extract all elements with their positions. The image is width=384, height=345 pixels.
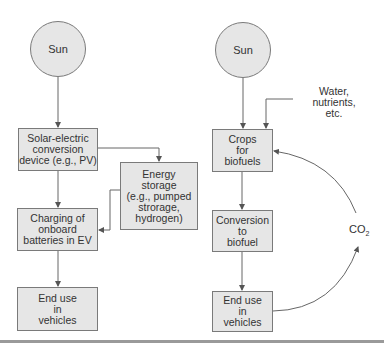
- conversion-box: Conversion to biofuel: [212, 210, 273, 252]
- crops-box: Crops for biofuels: [212, 129, 273, 172]
- crops-label: Crops for biofuels: [224, 134, 260, 167]
- end-use-label-right: End use in vehicles: [223, 295, 262, 328]
- energy-pathways-diagram: Sun Solar-electric conversion device (e.…: [0, 0, 384, 345]
- arrow-enduse-to-co2: [273, 247, 358, 311]
- arrow-co2-to-crops: [274, 151, 356, 213]
- arrow-solar-to-storage: [98, 148, 159, 161]
- conversion-label: Conversion to biofuel: [216, 215, 269, 248]
- arrow-storage-to-charging: [99, 190, 120, 230]
- energy-storage-box: Energy storage (e.g., pumped strorage, h…: [120, 162, 198, 230]
- co2-text: CO: [349, 223, 366, 235]
- charging-box: Charging of onboard batteries in EV: [17, 208, 98, 251]
- co2-subscript: 2: [366, 230, 370, 237]
- solar-conversion-box: Solar-electric conversion device (e.g., …: [18, 128, 98, 171]
- sun-label: Sun: [48, 44, 68, 55]
- end-use-label-left: End use in vehicles: [38, 293, 77, 326]
- co2-label: CO2: [349, 223, 369, 237]
- arrow-inputs-to-crops: [266, 99, 293, 128]
- inputs-label: Water, nutrients, etc.: [298, 86, 370, 119]
- sun-node-right: Sun: [215, 22, 271, 78]
- sun-node-left: Sun: [30, 21, 86, 77]
- sun-label: Sun: [233, 45, 253, 56]
- solar-conversion-label: Solar-electric conversion device (e.g., …: [19, 133, 97, 166]
- charging-label: Charging of onboard batteries in EV: [23, 213, 91, 246]
- energy-storage-label: Energy storage (e.g., pumped strorage, h…: [127, 169, 192, 224]
- end-use-box-right: End use in vehicles: [212, 291, 273, 332]
- end-use-box-left: End use in vehicles: [17, 287, 98, 331]
- bottom-divider: [0, 340, 384, 343]
